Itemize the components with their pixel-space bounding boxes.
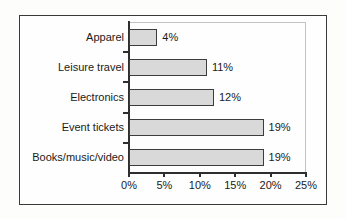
bar-value-label: 11% [212, 61, 233, 73]
bar-value-label: 4% [162, 31, 178, 43]
value-axis-tick [128, 172, 130, 177]
category-label: Electronics [0, 91, 124, 103]
bar [129, 59, 207, 76]
category-axis-tick [123, 51, 128, 53]
value-axis-tick-label: 5% [144, 179, 184, 191]
value-axis-tick-label: 10% [180, 179, 220, 191]
category-axis-tick [123, 81, 128, 83]
value-axis-tick [163, 172, 165, 177]
bar [129, 149, 264, 166]
scanned-page-background: 4%11%12%19%19% ApparelLeisure travelElec… [0, 0, 346, 219]
category-label: Leisure travel [0, 61, 124, 73]
value-axis-tick [270, 172, 272, 177]
value-axis-tick-label: 20% [251, 179, 291, 191]
category-axis-tick [123, 142, 128, 144]
category-axis-tick [123, 112, 128, 114]
value-axis-tick-label: 15% [215, 179, 255, 191]
category-axis-line [128, 172, 306, 174]
category-label: Event tickets [0, 121, 124, 133]
value-axis-tick [305, 172, 307, 177]
category-label: Apparel [0, 31, 124, 43]
bar [129, 89, 214, 106]
bar-value-label: 19% [269, 121, 291, 133]
value-axis-tick-label: 0% [109, 179, 149, 191]
bar-value-label: 19% [269, 151, 291, 163]
bar [129, 29, 157, 46]
bar-value-label: 12% [219, 91, 241, 103]
value-axis-tick-label: 25% [286, 179, 326, 191]
category-label: Books/music/video [0, 151, 124, 163]
value-axis-tick [199, 172, 201, 177]
value-axis-tick [234, 172, 236, 177]
bar [129, 119, 264, 136]
